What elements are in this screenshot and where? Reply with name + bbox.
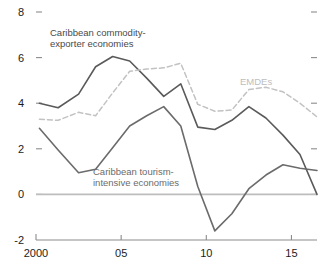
y-axis-ticks-right xyxy=(311,12,317,194)
chart-container: -202468 2000051015 Caribbean commodity-e… xyxy=(0,0,334,273)
y-axis-tick-label: 6 xyxy=(18,52,24,64)
y-axis-tick-label: 0 xyxy=(18,188,24,200)
commodity-exporter-label: Caribbean commodity-exporter economies xyxy=(50,27,146,49)
tourism-intensive-label: Caribbean tourism-intensive economies xyxy=(93,166,179,188)
x-axis-ticks xyxy=(121,235,291,240)
x-axis-tick-label: 05 xyxy=(115,247,127,259)
y-axis-labels: -202468 xyxy=(14,6,24,246)
series-lines xyxy=(39,56,317,230)
y-axis-tick-label: -2 xyxy=(14,234,24,246)
line-chart: -202468 2000051015 Caribbean commodity-e… xyxy=(0,0,334,273)
x-axis-tick-label: 2000 xyxy=(24,247,48,259)
emdes-label: EMDEs xyxy=(240,76,272,87)
x-axis-labels: 2000051015 xyxy=(24,247,298,259)
x-axis-tick-label: 15 xyxy=(285,247,297,259)
y-axis-tick-label: 8 xyxy=(18,6,24,18)
series-line-caribbean-commodity-exporter-economies xyxy=(39,56,317,194)
y-axis-tick-label: 4 xyxy=(18,97,24,109)
series-line-caribbean-tourism-intensive-economies xyxy=(39,107,317,231)
x-axis-tick-label: 10 xyxy=(200,247,212,259)
series-line-emdes xyxy=(39,63,317,120)
x-axis-line xyxy=(36,234,317,240)
y-axis-tick-label: 2 xyxy=(18,143,24,155)
